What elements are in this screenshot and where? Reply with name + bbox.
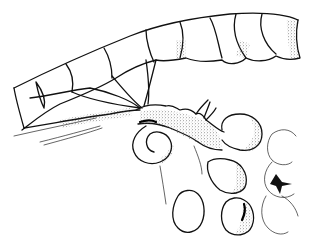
filament-drawing [0,0,312,244]
hyphal-body [136,100,224,150]
internal-strands [14,60,156,145]
illustration-canvas [0,0,312,244]
star-junction [270,174,292,194]
